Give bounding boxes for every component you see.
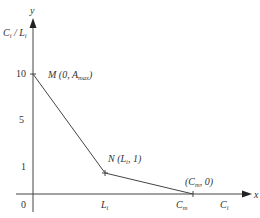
data-line	[33, 74, 193, 194]
y-tick-10: 10	[16, 68, 26, 79]
x-tick-cm: Cm	[176, 199, 188, 211]
y-tick-5: 5	[19, 114, 24, 125]
y-axis-arrow-icon	[30, 18, 37, 28]
x-tick-ci: Ci	[220, 199, 229, 211]
x-axis-label: x	[253, 189, 259, 200]
chart: y x Ci / Li 10 5 1 0 Li Cm Ci M (0, Amax…	[0, 0, 260, 218]
y-tick-1: 1	[21, 161, 26, 172]
x-axis-arrow-icon	[242, 191, 252, 198]
annotation-cm: (Cm, 0)	[185, 176, 214, 188]
annotation-n: N (Li, 1)	[107, 153, 142, 165]
y-axis-label: y	[29, 5, 35, 16]
y-axis-title: Ci / Li	[3, 27, 27, 39]
x-tick-li: Li	[100, 199, 109, 211]
y-tick-0: 0	[21, 199, 26, 210]
annotation-m: M (0, Amax)	[47, 69, 93, 81]
